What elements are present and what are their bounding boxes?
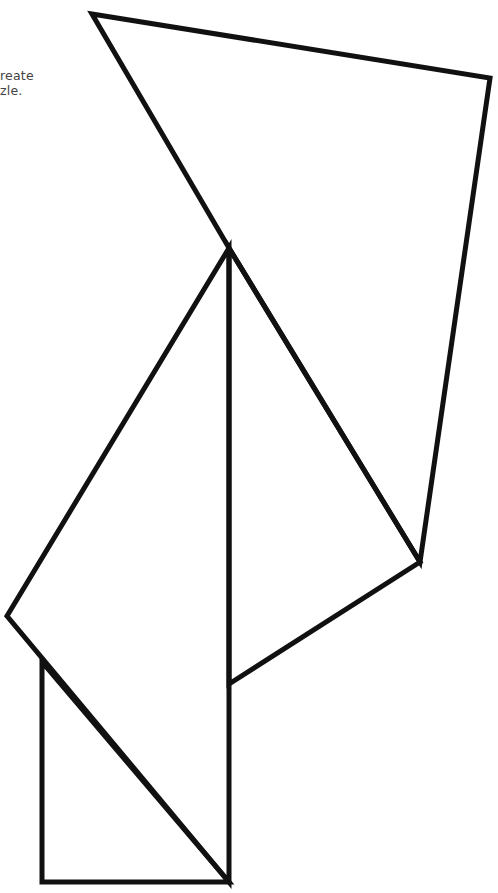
tangram-puzzle-outline bbox=[0, 0, 498, 893]
bottom-left-triangle-shape bbox=[42, 662, 229, 882]
right-triangle-shape bbox=[229, 248, 420, 684]
top-kite-shape bbox=[92, 14, 490, 562]
